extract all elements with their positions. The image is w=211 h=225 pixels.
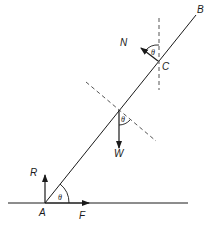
force-n-arrow [141,48,158,61]
ladder-diagram: A B C R F W N θ θ θ [0,0,211,225]
label-f: F [79,210,86,221]
perpendicular-dashed-line-g [86,82,156,141]
theta-label-a: θ [58,193,62,202]
theta-label-c: θ [151,48,155,57]
label-r: R [30,167,37,178]
theta-label-g: θ [121,115,125,124]
label-n: N [120,37,128,48]
label-a: A [38,207,46,218]
label-c: C [162,61,170,72]
label-b: B [197,4,204,15]
label-w: W [114,148,125,159]
